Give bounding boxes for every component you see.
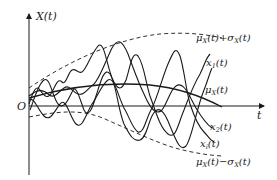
lower-envelope-curve <box>29 112 222 156</box>
origin-label: O <box>17 101 26 112</box>
lower-envelope-label: μX(t)−σX(t) <box>196 157 251 169</box>
x-axis-label: t <box>257 110 261 121</box>
sample-x1-curve <box>29 45 210 135</box>
x1-label: x1(t) <box>206 58 228 70</box>
sample-x2-curve <box>29 42 212 128</box>
sample-xi-curve <box>29 50 214 142</box>
upper-envelope-label: μX(t)+σX(t) <box>196 33 251 45</box>
x2-label: x2(t) <box>210 122 232 134</box>
random-process-diagram <box>0 0 277 180</box>
xi-label: xi(t) <box>200 139 220 151</box>
y-axis-label: X(t) <box>36 11 57 22</box>
mean-label: μX(t) <box>205 85 228 97</box>
